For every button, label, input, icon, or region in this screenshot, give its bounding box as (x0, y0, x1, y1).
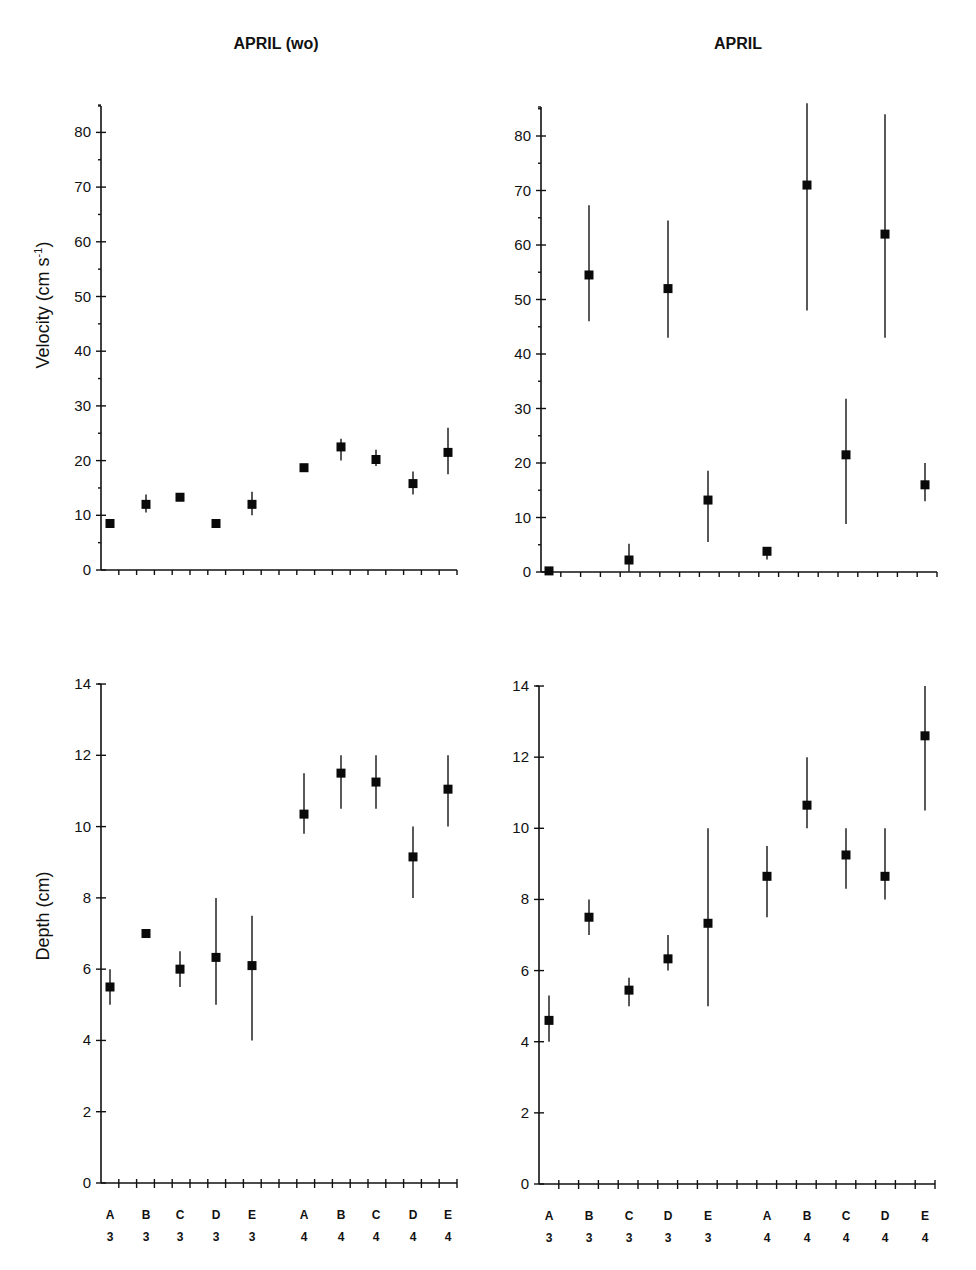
y-tick-label: 8 (83, 889, 91, 906)
data-point-d3 (212, 519, 221, 528)
data-point-c3 (625, 556, 634, 565)
data-point-d3 (212, 953, 221, 962)
data-point-d4 (881, 872, 890, 881)
category-number: 3 (626, 1231, 633, 1245)
data-point-d3 (664, 954, 673, 963)
category-number: 4 (338, 1230, 345, 1244)
data-point-a4 (763, 547, 772, 556)
y-tick-label: 40 (74, 342, 91, 359)
y-tick-label: 10 (74, 506, 91, 523)
data-point-e3 (704, 496, 713, 505)
y-tick-label: 0 (523, 563, 531, 580)
category-number: 4 (410, 1230, 417, 1244)
category-letter: D (664, 1209, 673, 1223)
title-april: APRIL (714, 35, 762, 52)
y-tick-label: 2 (521, 1104, 529, 1121)
data-point-a4 (300, 463, 309, 472)
title-april-wo: APRIL (wo) (233, 35, 318, 52)
y-tick-label: 6 (83, 960, 91, 977)
y-tick-label: 70 (74, 178, 91, 195)
category-letter: E (704, 1209, 712, 1223)
y-tick-label: 20 (74, 452, 91, 469)
data-point-e3 (248, 500, 257, 509)
y-tick-label: 10 (74, 818, 91, 835)
data-point-d4 (409, 852, 418, 861)
y-tick-label: 6 (521, 962, 529, 979)
y-tick-label: 50 (514, 291, 531, 308)
category-number: 3 (705, 1231, 712, 1245)
category-number: 3 (213, 1230, 220, 1244)
category-number: 4 (882, 1231, 889, 1245)
data-point-c3 (176, 965, 185, 974)
data-point-c3 (625, 986, 634, 995)
category-number: 3 (143, 1230, 150, 1244)
category-number: 3 (546, 1231, 553, 1245)
y-tick-label: 0 (521, 1175, 529, 1192)
y-tick-label: 10 (512, 819, 529, 836)
data-point-a3 (545, 566, 554, 575)
data-point-b4 (337, 442, 346, 451)
data-point-c4 (372, 778, 381, 787)
y-tick-label: 4 (83, 1031, 91, 1048)
category-letter: B (803, 1209, 812, 1223)
category-letter: A (545, 1209, 554, 1223)
category-number: 3 (177, 1230, 184, 1244)
category-number: 4 (445, 1230, 452, 1244)
y-tick-label: 8 (521, 890, 529, 907)
category-number: 3 (586, 1231, 593, 1245)
category-letter: C (625, 1209, 634, 1223)
category-number: 4 (373, 1230, 380, 1244)
data-point-a3 (106, 519, 115, 528)
y-tick-label: 20 (514, 454, 531, 471)
y-tick-label: 30 (514, 400, 531, 417)
data-point-d4 (881, 230, 890, 239)
category-number: 4 (764, 1231, 771, 1245)
category-number: 4 (301, 1230, 308, 1244)
data-point-e3 (704, 919, 713, 928)
data-point-d4 (409, 479, 418, 488)
y-tick-label: 2 (83, 1103, 91, 1120)
figure: APRIL (wo) APRIL Velocity (cm s-1) Depth… (0, 0, 976, 1270)
data-point-a4 (300, 810, 309, 819)
data-point-e4 (444, 448, 453, 457)
category-letter: B (337, 1208, 346, 1222)
panel-depth-april: 02468101214A3B3C3D3E3A4B4C4D4E4 (512, 677, 935, 1245)
y-tick-label: 0 (83, 561, 91, 578)
data-point-a4 (763, 872, 772, 881)
category-letter: D (881, 1209, 890, 1223)
category-number: 3 (249, 1230, 256, 1244)
velocity-axis-title: Velocity (cm s-1) (32, 242, 53, 369)
category-letter: C (372, 1208, 381, 1222)
depth-axis-title: Depth (cm) (33, 871, 53, 960)
data-point-b3 (142, 929, 151, 938)
y-tick-label: 60 (74, 233, 91, 250)
y-tick-label: 4 (521, 1033, 529, 1050)
category-letter: E (248, 1208, 256, 1222)
y-tick-label: 40 (514, 345, 531, 362)
data-point-a3 (106, 982, 115, 991)
y-tick-label: 12 (512, 748, 529, 765)
panel-depth-april-wo: 02468101214A3B3C3D3E3A4B4C4D4E4 (74, 675, 457, 1244)
data-point-b4 (803, 181, 812, 190)
y-tick-label: 60 (514, 236, 531, 253)
category-letter: D (212, 1208, 221, 1222)
category-letter: C (176, 1208, 185, 1222)
category-letter: E (444, 1208, 452, 1222)
data-point-b4 (803, 801, 812, 810)
category-number: 3 (665, 1231, 672, 1245)
data-point-e4 (921, 731, 930, 740)
data-point-e3 (248, 961, 257, 970)
category-number: 3 (107, 1230, 114, 1244)
category-number: 4 (843, 1231, 850, 1245)
category-letter: A (300, 1208, 309, 1222)
data-point-b3 (585, 270, 594, 279)
category-letter: D (409, 1208, 418, 1222)
category-letter: B (142, 1208, 151, 1222)
category-letter: E (921, 1209, 929, 1223)
data-point-a3 (545, 1016, 554, 1025)
data-point-b4 (337, 769, 346, 778)
data-point-e4 (444, 785, 453, 794)
y-tick-label: 0 (83, 1174, 91, 1191)
category-letter: B (585, 1209, 594, 1223)
category-letter: A (106, 1208, 115, 1222)
